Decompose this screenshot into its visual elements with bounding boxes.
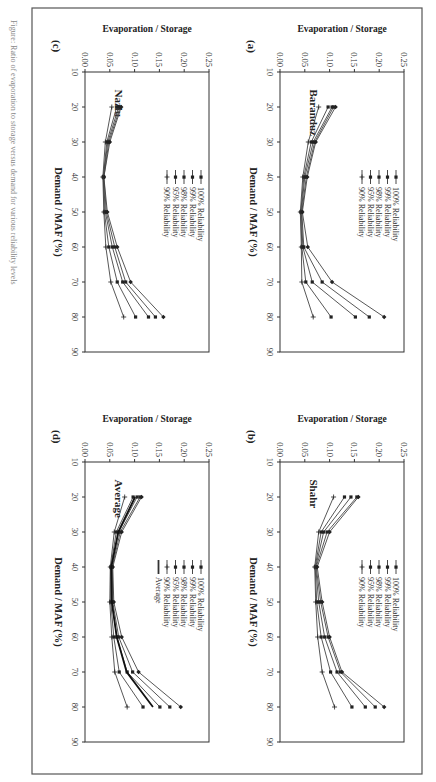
chart-title: Average [113, 480, 125, 518]
rotated-page: 0.000.050.100.150.200.251020304050607080… [0, 0, 436, 782]
chart-title: Shahr [308, 480, 320, 509]
x-axis-label: Demand / MAF (%) [247, 557, 259, 647]
x-tick-label: 60 [70, 633, 80, 642]
y-tick-label: 0.05 [300, 52, 310, 67]
y-axis-label: Evaporation / Storage [102, 24, 191, 34]
x-tick-label: 40 [70, 563, 80, 572]
chart-title: Baranduz [308, 90, 320, 137]
legend-entry: 99% Reliability [188, 577, 197, 627]
chart-panel-average: 0.000.050.100.150.200.251020304050607080… [50, 414, 214, 746]
y-tick-label: 0.10 [130, 442, 140, 457]
legend-entry: 95% Reliability [171, 187, 180, 237]
x-tick-label: 10 [70, 458, 80, 467]
y-tick-label: 0.05 [105, 442, 115, 457]
x-tick-label: 90 [265, 348, 275, 357]
x-tick-label: 10 [70, 68, 80, 77]
legend-entry: 90% Reliability [357, 187, 366, 237]
y-tick-label: 0.20 [179, 52, 189, 67]
x-tick-label: 70 [265, 668, 275, 677]
x-tick-label: 60 [70, 243, 80, 252]
y-axis-label: Evaporation / Storage [297, 414, 386, 424]
x-tick-label: 30 [265, 528, 275, 537]
y-axis-label: Evaporation / Storage [102, 414, 191, 424]
legend-entry: 95% Reliability [366, 187, 375, 237]
y-tick-label: 0.25 [399, 52, 409, 67]
x-tick-label: 80 [265, 313, 275, 322]
x-axis-label: Demand / MAF (%) [52, 167, 64, 257]
y-tick-label: 0.25 [204, 52, 214, 67]
x-tick-label: 70 [70, 668, 80, 677]
x-tick-label: 50 [265, 598, 275, 607]
x-tick-label: 50 [70, 598, 80, 607]
y-tick-label: 0.05 [105, 52, 115, 67]
x-axis-label: Demand / MAF (%) [247, 167, 259, 257]
x-tick-label: 90 [265, 738, 275, 747]
y-tick-label: 0.10 [130, 52, 140, 67]
x-tick-label: 80 [70, 313, 80, 322]
panel-label: (c) [50, 40, 63, 53]
x-tick-label: 70 [70, 278, 80, 287]
legend-entry: 100% Reliability [196, 187, 205, 241]
x-tick-label: 40 [265, 563, 275, 572]
legend-entry: 100% Reliability [196, 577, 205, 631]
chart-panel-nazlu: 0.000.050.100.150.200.251020304050607080… [50, 24, 214, 356]
legend-entry: 99% Reliability [383, 187, 392, 237]
legend-entry: 100% Reliability [391, 577, 400, 631]
figure-canvas: 0.000.050.100.150.200.251020304050607080… [0, 0, 436, 782]
legend-entry: 99% Reliability [383, 577, 392, 627]
legend-entry: 98% Reliability [179, 577, 188, 627]
x-tick-label: 90 [70, 348, 80, 357]
y-tick-label: 0.25 [399, 442, 409, 457]
legend-entry: 98% Reliability [179, 187, 188, 237]
x-tick-label: 70 [265, 278, 275, 287]
x-tick-label: 40 [265, 173, 275, 182]
x-tick-label: 30 [70, 138, 80, 147]
legend-entry: 99% Reliability [188, 187, 197, 237]
y-tick-label: 0.10 [325, 52, 335, 67]
x-axis-label: Demand / MAF (%) [52, 557, 64, 647]
x-tick-label: 60 [265, 633, 275, 642]
y-axis-label: Evaporation / Storage [297, 24, 386, 34]
x-tick-label: 20 [265, 493, 275, 502]
legend-entry: 90% Reliability [357, 577, 366, 627]
panel-label: (d) [50, 430, 63, 444]
y-tick-label: 0.15 [154, 442, 164, 457]
y-tick-label: 0.20 [374, 52, 384, 67]
legend-entry: 95% Reliability [366, 577, 375, 627]
y-tick-label: 0.15 [349, 52, 359, 67]
y-tick-label: 0.00 [275, 52, 285, 67]
legend-entry: 95% Reliability [171, 577, 180, 627]
x-tick-label: 30 [265, 138, 275, 147]
x-tick-label: 60 [265, 243, 275, 252]
x-tick-label: 20 [70, 103, 80, 112]
x-tick-label: 80 [265, 703, 275, 712]
legend-entry: Average [154, 577, 163, 604]
panel-label: (a) [245, 40, 258, 53]
x-tick-label: 50 [70, 208, 80, 217]
y-tick-label: 0.00 [80, 52, 90, 67]
x-tick-label: 20 [70, 493, 80, 502]
x-tick-label: 90 [70, 738, 80, 747]
y-tick-label: 0.00 [80, 442, 90, 457]
x-tick-label: 40 [70, 173, 80, 182]
x-tick-label: 10 [265, 68, 275, 77]
legend-entry: 98% Reliability [374, 187, 383, 237]
x-tick-label: 80 [70, 703, 80, 712]
legend-entry: 90% Reliability [162, 577, 171, 627]
y-tick-label: 0.15 [349, 442, 359, 457]
x-tick-label: 20 [265, 103, 275, 112]
x-tick-label: 30 [70, 528, 80, 537]
x-tick-label: 50 [265, 208, 275, 217]
chart-panel-baranduz: 0.000.050.100.150.200.251020304050607080… [245, 24, 409, 356]
chart-panel-shahr: 0.000.050.100.150.200.251020304050607080… [245, 414, 409, 746]
x-tick-label: 10 [265, 458, 275, 467]
y-tick-label: 0.20 [374, 442, 384, 457]
y-tick-label: 0.20 [179, 442, 189, 457]
y-tick-label: 0.25 [204, 442, 214, 457]
legend-entry: 98% Reliability [374, 577, 383, 627]
y-tick-label: 0.00 [275, 442, 285, 457]
y-tick-label: 0.10 [325, 442, 335, 457]
panel-label: (b) [245, 430, 258, 444]
figure-caption: Figure: Ratio of evaporation to storage … [9, 20, 18, 285]
legend-entry: 90% Reliability [162, 187, 171, 237]
